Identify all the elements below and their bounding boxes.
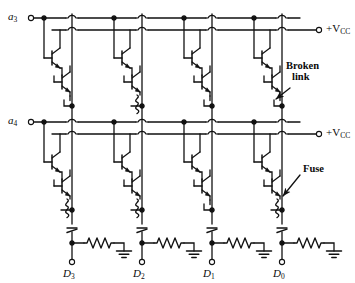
transistor-q1-input <box>262 48 270 68</box>
input-label-a3: a3 <box>8 11 17 24</box>
transistor-q1-input <box>122 48 130 68</box>
ground-symbol <box>117 251 132 257</box>
pulldown-resistor <box>84 238 114 248</box>
transistor-q2-output <box>272 176 280 196</box>
resistor-to-ground-lead <box>184 243 194 251</box>
annotation-fuse: Fuse <box>303 163 324 174</box>
ground-symbol <box>327 251 342 257</box>
output-terminal-D0[interactable] <box>279 259 284 264</box>
fuse-intact <box>66 199 69 218</box>
input-terminal-a3[interactable] <box>28 15 33 20</box>
supply-terminal-vcc-top[interactable] <box>316 27 321 32</box>
output-terminal-D1[interactable] <box>209 259 214 264</box>
transistor-q2-output <box>202 72 210 92</box>
fuse-intact <box>276 199 279 218</box>
output-terminal-D2[interactable] <box>139 259 144 264</box>
pulldown-resistor <box>224 238 254 248</box>
output-label-D0: D0 <box>273 268 285 281</box>
supply-terminal-vcc-bottom[interactable] <box>316 131 321 136</box>
transistor-q2-output <box>62 176 70 196</box>
supply-label-vcc-top: +VCC <box>326 23 350 36</box>
fuse-intact <box>136 199 139 218</box>
supply-label-vcc-bottom: +VCC <box>326 127 350 140</box>
resistor-to-ground-lead <box>114 243 124 251</box>
transistor-q2-output <box>62 72 70 92</box>
transistor-q1-input <box>52 152 60 172</box>
ground-symbol <box>187 251 202 257</box>
transistor-q2-output <box>272 72 280 92</box>
transistor-q1-input <box>52 48 60 68</box>
ground-symbol <box>257 251 272 257</box>
output-terminal-D3[interactable] <box>69 259 74 264</box>
transistor-q1-input <box>122 152 130 172</box>
fuse-intact <box>136 95 139 114</box>
circuit-diagram-figure: a3 a4 +VCC +VCC Broken link Fuse D3 D2 D… <box>0 0 355 283</box>
output-label-D1: D1 <box>203 268 215 281</box>
pulldown-resistor <box>294 238 324 248</box>
output-label-D3: D3 <box>63 268 75 281</box>
transistor-q1-input <box>262 152 270 172</box>
output-label-D2: D2 <box>133 268 145 281</box>
transistor-q2-output <box>202 176 210 196</box>
transistor-q1-input <box>192 152 200 172</box>
transistor-q2-output <box>132 176 140 196</box>
output-columns <box>67 14 342 265</box>
transistor-q2-output <box>132 72 140 92</box>
schematic-canvas <box>0 0 355 283</box>
fuse-leader-line <box>283 175 300 196</box>
input-label-a4: a4 <box>8 115 17 128</box>
resistor-to-ground-lead <box>254 243 264 251</box>
resistor-to-ground-lead <box>324 243 334 251</box>
annotation-broken-link: Broken link <box>286 60 319 82</box>
pulldown-resistor <box>154 238 184 248</box>
input-terminal-a4[interactable] <box>28 119 33 124</box>
transistor-q1-input <box>192 48 200 68</box>
